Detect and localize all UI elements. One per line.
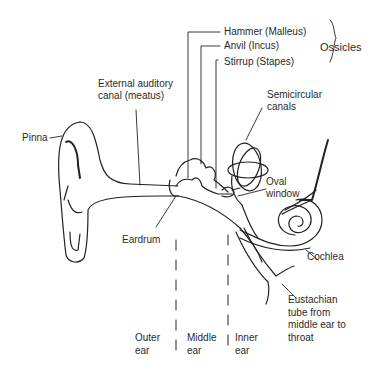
label-middle-ear: Middle ear [187,331,216,357]
label-line: Semicircular [267,89,322,101]
label-line: Middle [187,331,216,344]
label-line: throat [288,332,346,345]
label-line: window [266,188,299,200]
label-line: ear [235,344,258,357]
label-line: Eustachian [288,294,346,307]
label-cochlea: Cochlea [307,251,344,263]
label-ossicles: Ossicles [320,41,362,53]
label-line: Inner [235,331,258,344]
label-outer-ear: Outer ear [135,331,160,357]
label-line: ear [187,344,216,357]
label-external-canal: External auditory canal (meatus) [98,78,173,102]
label-line: Oval [266,176,299,188]
label-stirrup: Stirrup (Stapes) [224,56,294,68]
label-hammer: Hammer (Malleus) [224,26,306,38]
label-line: tube from [288,307,346,320]
label-line: canals [267,101,322,113]
label-inner-ear: Inner ear [235,331,258,357]
label-pinna: Pinna [22,132,48,144]
label-line: ear [135,344,160,357]
label-semicircular-canals: Semicircular canals [267,89,322,113]
eustachian-tube-shape [236,228,294,304]
label-oval-window: Oval window [266,176,299,200]
label-line: middle ear to [288,319,346,332]
label-eustachian-tube: Eustachian tube from middle ear to throa… [288,294,346,344]
label-eardrum: Eardrum [122,234,160,246]
label-line: Outer [135,331,160,344]
label-line: canal (meatus) [98,90,173,102]
label-line: External auditory [98,78,173,90]
label-anvil: Anvil (Incus) [224,40,279,52]
